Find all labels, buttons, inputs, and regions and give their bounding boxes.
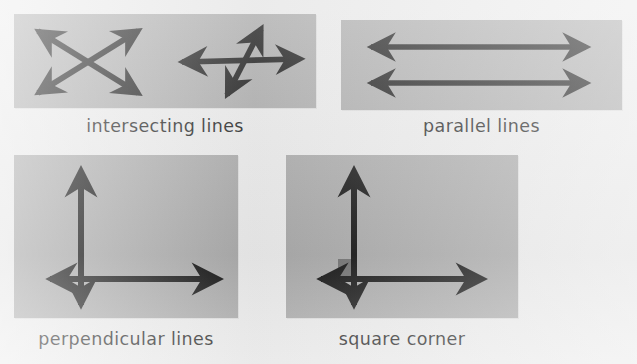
x-cross-diagram xyxy=(38,31,138,93)
steep-cross-diagram xyxy=(182,29,300,95)
horizontal-arrow xyxy=(182,59,300,62)
caption-parallel-lines: parallel lines xyxy=(341,118,622,136)
panel-parallel-lines xyxy=(341,20,622,110)
parallel-lines-drawing xyxy=(341,20,622,110)
parallel-pair-diagram xyxy=(371,47,586,83)
perpendicular-lines-drawing xyxy=(14,155,238,318)
right-angle-cross-diagram xyxy=(50,171,218,305)
panel-intersecting-lines xyxy=(14,14,316,108)
caption-square-corner: square corner xyxy=(286,331,518,349)
caption-perpendicular-lines: perpendicular lines xyxy=(6,331,246,349)
diagram-page: intersecting lines parallel lines xyxy=(0,0,637,364)
intersecting-lines-drawing xyxy=(14,14,316,108)
caption-intersecting-lines: intersecting lines xyxy=(14,118,316,136)
panel-perpendicular-lines xyxy=(14,155,238,318)
right-angle-cross-diagram xyxy=(321,171,482,305)
panel-square-corner xyxy=(286,155,518,318)
square-corner-drawing xyxy=(286,155,518,318)
